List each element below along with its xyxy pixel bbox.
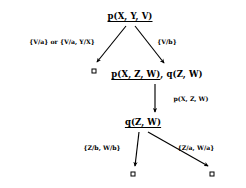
- edge-label-resolving-literal: p(X, Z, W): [174, 95, 209, 102]
- remaining-literals: , q(Z, W): [160, 69, 202, 79]
- goal-node-root: p(X, Y, V): [108, 11, 153, 21]
- empty-clause-box-1: [92, 69, 97, 74]
- tree-edges-layer: [0, 0, 246, 188]
- edge-q-to-empty-left: [135, 132, 139, 166]
- empty-clause-box-3: [210, 172, 215, 177]
- edge-root-to-empty: [97, 26, 126, 62]
- edge-label-substitution-3: {Z/b, W/b}: [84, 144, 121, 151]
- edge-label-substitution-4: {Z/a, W/a}: [178, 144, 214, 151]
- edge-label-substitution-2: {V/b}: [157, 38, 176, 45]
- goal-node-p-q: p(X, Z, W), q(Z, W): [111, 69, 202, 79]
- edge-label-substitution-1: {V/a} or {V/a, Y/X}: [29, 38, 95, 45]
- empty-clause-box-2: [131, 172, 136, 177]
- selected-literal: p(X, Y, V): [108, 11, 153, 21]
- sld-resolution-tree: p(X, Y, V) p(X, Z, W), q(Z, W) q(Z, W) {…: [0, 0, 246, 188]
- edge-root-to-p-q: [135, 26, 164, 63]
- selected-literal: p(X, Z, W): [111, 69, 160, 79]
- goal-node-q: q(Z, W): [125, 117, 161, 127]
- selected-literal: q(Z, W): [125, 117, 161, 127]
